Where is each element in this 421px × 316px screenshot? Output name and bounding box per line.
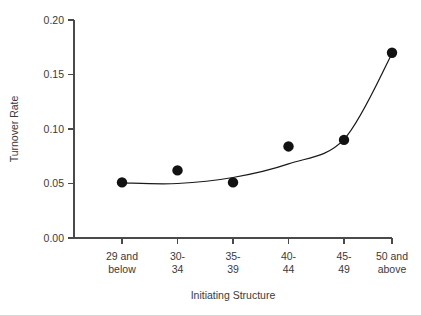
data-point <box>228 177 238 187</box>
y-axis-ticks <box>68 20 74 238</box>
x-tick-label-4-line1: 45- <box>336 250 352 262</box>
y-tick-label-2: 0.10 <box>44 123 65 135</box>
data-point <box>283 141 293 151</box>
x-tick-label-5-line2: above <box>378 263 407 275</box>
data-point <box>117 177 127 187</box>
data-point <box>387 48 397 58</box>
y-axis-tick-labels: 0.00 0.05 0.10 0.15 0.20 <box>44 14 65 244</box>
x-tick-label-5-line1: 50 and <box>376 250 408 262</box>
data-point <box>172 165 182 175</box>
data-points-group <box>117 48 397 188</box>
x-tick-label-3-line2: 44 <box>283 263 295 275</box>
x-tick-label-2-line1: 35- <box>225 250 241 262</box>
x-tick-label-3-line1: 40- <box>281 250 297 262</box>
x-tick-label-4-line2: 49 <box>338 263 350 275</box>
x-tick-label-2-line2: 39 <box>227 263 239 275</box>
x-axis-tick-labels: 29 and below 30- 34 35- 39 40- 44 45- 49… <box>106 250 408 275</box>
chart-figure: 0.00 0.05 0.10 0.15 0.20 29 and below 30… <box>0 0 421 316</box>
x-tick-label-1-line2: 34 <box>172 263 184 275</box>
y-tick-label-1: 0.05 <box>44 177 65 189</box>
x-axis-ticks <box>122 238 392 244</box>
y-tick-label-0: 0.00 <box>44 232 65 244</box>
scatter-chart-svg: 0.00 0.05 0.10 0.15 0.20 29 and below 30… <box>0 0 421 316</box>
x-tick-label-1-line1: 30- <box>170 250 186 262</box>
x-tick-label-0-line2: below <box>108 263 136 275</box>
data-point <box>339 135 349 145</box>
y-axis-title: Turnover Rate <box>8 95 20 162</box>
x-axis-title: Initiating Structure <box>191 289 276 301</box>
fitted-trend-curve <box>122 54 392 184</box>
x-tick-label-0-line1: 29 and <box>106 250 138 262</box>
y-tick-label-4: 0.20 <box>44 14 65 26</box>
y-tick-label-3: 0.15 <box>44 68 65 80</box>
